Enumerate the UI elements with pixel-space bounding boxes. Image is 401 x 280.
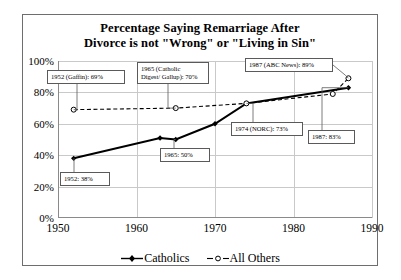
annotation-1965-catholics: 1965: 50% [160, 148, 210, 162]
chart-legend: Catholics All Others [0, 250, 401, 266]
filled-diamond-marker-icon [121, 254, 143, 263]
series-line-catholics [74, 88, 349, 159]
y-axis-tick: 40% [8, 149, 54, 161]
data-point-all-others [244, 101, 249, 106]
chart-title-line-2: Divorce is not "Wrong" or "Living in Sin… [23, 36, 377, 51]
data-point-all-others [173, 106, 178, 111]
x-axis-tick: 1950 [47, 222, 70, 234]
chart-title-line-1: Percentage Saying Remarriage After [23, 21, 377, 36]
data-point-all-others [346, 76, 351, 81]
annotation-1974-catholics: 1974 (NORC): 73% [231, 122, 303, 136]
gridline-vertical [372, 61, 373, 218]
annotation-1965-all-others: 1965 (Catholic Digest/ Gallup): 70% [137, 62, 209, 84]
x-axis-tick: 1980 [282, 222, 305, 234]
annotation-1952-catholics: 1952: 38% [60, 172, 110, 186]
x-axis-tick-labels: 1950 1960 1970 1980 1990 [58, 222, 372, 238]
y-axis-tick: 20% [8, 181, 54, 193]
annotation-1952-all-others: 1952 (Gaffin): 69% [47, 70, 125, 84]
x-axis-tick: 1990 [361, 222, 384, 234]
x-axis-tick: 1960 [125, 222, 148, 234]
chart-title: Percentage Saying Remarriage After Divor… [23, 21, 377, 51]
y-axis-tick-labels: 100% 80% 60% 40% 20% 0% [0, 61, 54, 218]
legend-label-catholics: Catholics [144, 251, 189, 265]
legend-item-catholics[interactable]: Catholics [121, 250, 189, 266]
legend-label-all-others: All Others [230, 251, 280, 265]
data-point-all-others [71, 107, 76, 112]
data-point-all-others [330, 91, 335, 96]
y-axis-tick: 60% [8, 118, 54, 130]
x-axis-tick: 1970 [204, 222, 227, 234]
data-point-catholics [157, 135, 162, 140]
y-axis-tick: 100% [8, 55, 54, 67]
annotation-1987-catholics: 1987: 83% [308, 130, 355, 144]
legend-item-all-others[interactable]: All Others [207, 250, 280, 266]
data-point-catholics [71, 156, 76, 161]
annotation-1987-all-others: 1987 (ABC News): 89% [245, 58, 333, 72]
data-point-catholics [346, 85, 351, 90]
y-axis-tick: 80% [8, 86, 54, 98]
open-circle-marker-icon [207, 254, 229, 263]
data-point-catholics [173, 137, 178, 142]
